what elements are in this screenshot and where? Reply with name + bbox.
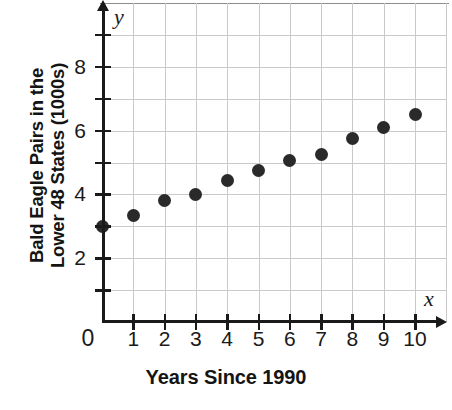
- x-axis-tick-label: 9: [367, 327, 401, 351]
- gridline-horizontal: [102, 131, 447, 132]
- gridline-vertical: [352, 3, 353, 322]
- gridline-horizontal: [102, 290, 447, 291]
- y-axis-tick: [95, 289, 111, 292]
- gridline-vertical: [415, 3, 416, 322]
- gridline-horizontal: [102, 67, 447, 68]
- gridline-vertical: [133, 3, 134, 322]
- x-axis-title: Years Since 1990: [0, 366, 452, 389]
- data-point: [346, 132, 359, 145]
- gridline-vertical: [384, 3, 385, 322]
- gridline-vertical: [446, 3, 447, 322]
- x-axis-tick-label: 8: [335, 327, 369, 351]
- data-point: [283, 154, 296, 167]
- y-axis-tick-label: 4: [62, 182, 86, 206]
- gridline-horizontal: [102, 35, 447, 36]
- scatter-plot-figure: Bald Eagle Pairs in the Lower 48 States …: [0, 0, 452, 410]
- x-axis-tick-label: 4: [210, 327, 244, 351]
- data-point: [409, 108, 422, 121]
- origin-label: 0: [76, 325, 100, 352]
- gridline-horizontal: [102, 258, 447, 259]
- data-point: [127, 209, 140, 222]
- data-point: [189, 188, 202, 201]
- y-axis-title-line2: Lower 48 States (1000s): [48, 62, 69, 267]
- x-axis-tick-label: 5: [242, 327, 276, 351]
- plot-area: [102, 3, 447, 322]
- data-point: [158, 194, 171, 207]
- x-axis-variable-label: x: [424, 286, 434, 312]
- gridline-vertical: [196, 3, 197, 322]
- gridline-horizontal: [102, 99, 447, 100]
- plot-top-border: [100, 3, 449, 4]
- x-axis-line: [102, 320, 438, 323]
- data-point: [315, 148, 328, 161]
- x-axis-tick-label: 7: [304, 327, 338, 351]
- data-point: [252, 164, 265, 177]
- y-axis-arrow-icon: [97, 0, 109, 11]
- x-axis-tick-label: 10: [398, 327, 432, 351]
- gridline-vertical: [227, 3, 228, 322]
- gridline-horizontal: [102, 194, 447, 195]
- y-axis-tick-label: 2: [62, 246, 86, 270]
- y-axis-tick: [95, 98, 111, 101]
- y-axis-tick: [95, 162, 111, 165]
- y-axis-tick-label: 8: [62, 55, 86, 79]
- gridline-horizontal: [102, 163, 447, 164]
- gridline-vertical: [321, 3, 322, 322]
- x-axis-tick-label: 1: [116, 327, 150, 351]
- y-axis-tick: [95, 66, 111, 69]
- y-axis-title: Bald Eagle Pairs in the Lower 48 States …: [0, 0, 96, 330]
- x-axis-tick-label: 2: [148, 327, 182, 351]
- gridline-vertical: [165, 3, 166, 322]
- y-axis-tick: [95, 130, 111, 133]
- y-axis-tick: [95, 257, 111, 260]
- gridline-horizontal: [102, 226, 447, 227]
- gridline-vertical: [259, 3, 260, 322]
- x-axis-arrow-icon: [436, 316, 447, 328]
- y-axis-tick: [95, 225, 111, 228]
- y-axis-tick: [95, 193, 111, 196]
- data-point: [377, 121, 390, 134]
- data-point: [221, 174, 234, 187]
- y-axis-variable-label: y: [114, 4, 124, 30]
- y-axis-tick: [95, 34, 111, 37]
- y-axis-line: [102, 8, 105, 323]
- y-axis-title-line1: Bald Eagle Pairs in the: [27, 62, 48, 267]
- x-axis-tick-label: 3: [179, 327, 213, 351]
- y-axis-tick-label: 6: [62, 119, 86, 143]
- x-axis-tick-label: 6: [273, 327, 307, 351]
